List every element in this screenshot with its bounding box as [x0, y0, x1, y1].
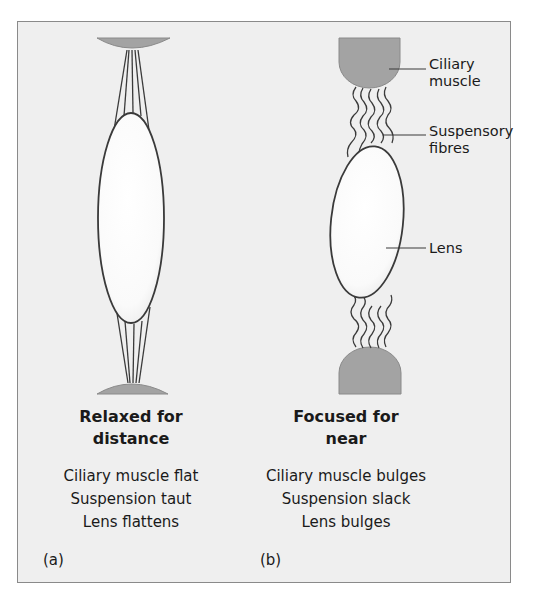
ciliary-muscle-bulge-bottom: [339, 347, 401, 394]
ciliary-muscle-flat-bottom: [97, 384, 168, 394]
lens-bulge: [323, 143, 410, 302]
slack-fibres-bottom: [351, 293, 392, 348]
fibres-label-line1: Suspensory: [429, 123, 513, 140]
fibres-label-line2: fibres: [429, 140, 513, 157]
panel-b-desc-line3: Lens bulges: [236, 511, 456, 534]
ciliary-muscle-flat-top: [97, 38, 170, 48]
ciliary-muscle-bulge-top: [339, 38, 400, 88]
ciliary-label-line2: muscle: [429, 73, 481, 90]
panel-a-desc-line3: Lens flattens: [21, 511, 241, 534]
ciliary-muscle-label: Ciliary muscle: [429, 56, 481, 90]
panel-b-title-line2: near: [246, 428, 446, 450]
panel-b-title-line1: Focused for: [246, 406, 446, 428]
relaxed-diagram: [97, 38, 170, 394]
ciliary-label-line1: Ciliary: [429, 56, 481, 73]
panel-b-desc-line1: Ciliary muscle bulges: [236, 465, 456, 488]
panel-a-description: Ciliary muscle flat Suspension taut Lens…: [21, 465, 241, 534]
panel-a-letter: (a): [43, 551, 64, 569]
lens-flat: [98, 113, 164, 323]
panel-a-title: Relaxed for distance: [31, 406, 231, 450]
lens-label: Lens: [429, 240, 463, 257]
panel-b-title: Focused for near: [246, 406, 446, 450]
panel-b-description: Ciliary muscle bulges Suspension slack L…: [236, 465, 456, 534]
panel-a-desc-line2: Suspension taut: [21, 488, 241, 511]
panel-a-desc-line1: Ciliary muscle flat: [21, 465, 241, 488]
panel-a-title-line2: distance: [31, 428, 231, 450]
focused-diagram: [323, 38, 426, 394]
panel-b-letter: (b): [260, 551, 281, 569]
panel-a-title-line1: Relaxed for: [31, 406, 231, 428]
suspensory-fibres-label: Suspensory fibres: [429, 123, 513, 157]
panel-b-desc-line2: Suspension slack: [236, 488, 456, 511]
